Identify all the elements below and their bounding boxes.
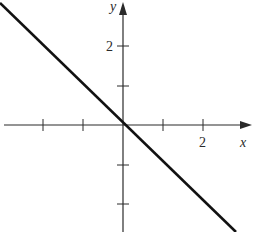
y-axis-label: y bbox=[108, 0, 117, 14]
y-tick-label-2: 2 bbox=[106, 39, 113, 54]
x-axis-arrow-icon bbox=[240, 121, 252, 129]
series-line-y-equals-neg-x bbox=[0, 3, 236, 232]
line-graph: 2 x 2 y bbox=[0, 0, 257, 232]
y-axis-arrow-icon bbox=[119, 2, 127, 15]
x-axis-label: x bbox=[239, 135, 247, 150]
x-axis: 2 x bbox=[4, 119, 252, 150]
x-tick-label-2: 2 bbox=[199, 135, 206, 150]
